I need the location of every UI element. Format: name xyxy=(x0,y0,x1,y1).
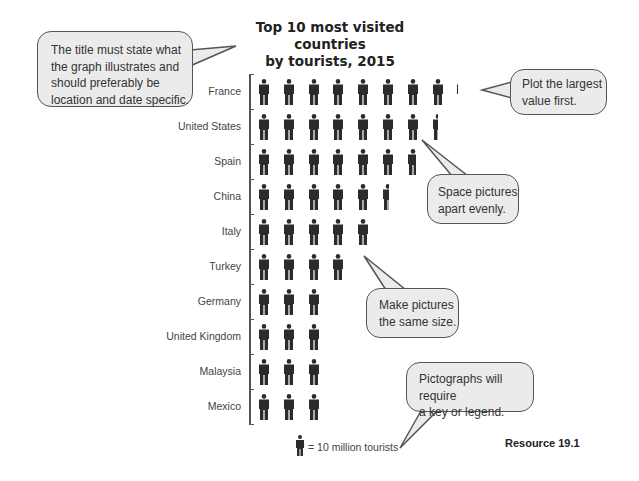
person-icon xyxy=(407,79,419,105)
axis-tick xyxy=(249,249,254,251)
person-icon xyxy=(308,359,320,385)
person-icon xyxy=(258,184,270,210)
person-icon xyxy=(308,324,320,350)
resource-label: Resource 19.1 xyxy=(505,437,580,449)
axis-tick xyxy=(249,144,254,146)
partial-person-icon xyxy=(456,79,458,105)
axis-tick xyxy=(249,179,254,181)
axis-tick xyxy=(249,284,254,286)
callout-line: Make pictures xyxy=(379,297,458,314)
person-icon xyxy=(308,219,320,245)
person-icon xyxy=(308,254,320,280)
legend-label: = 10 million tourists xyxy=(308,441,398,453)
callout-line: the graph illustrates and xyxy=(51,59,192,76)
row-label: Malaysia xyxy=(200,365,241,377)
person-icon xyxy=(357,149,369,175)
person-icon xyxy=(332,79,344,105)
callout-key: Pictographs will require a key or legend… xyxy=(406,362,534,412)
row-label: United States xyxy=(178,120,241,132)
person-icon xyxy=(283,289,295,315)
person-icon xyxy=(258,149,270,175)
callout-title-tip: The title must state what the graph illu… xyxy=(37,31,193,107)
person-icon xyxy=(283,149,295,175)
callout-line: Plot the largest xyxy=(522,76,606,93)
person-icon xyxy=(283,394,295,420)
person-icon xyxy=(258,394,270,420)
row-label: Germany xyxy=(198,295,241,307)
row-label: United Kingdom xyxy=(166,330,241,342)
person-icon xyxy=(258,254,270,280)
callout-line: location and date specific. xyxy=(51,92,192,109)
person-icon xyxy=(332,184,344,210)
person-icon xyxy=(332,149,344,175)
person-icon xyxy=(283,324,295,350)
person-icon xyxy=(308,79,320,105)
person-icon xyxy=(308,114,320,140)
callout-line: a key or legend. xyxy=(419,404,533,421)
row-label: China xyxy=(214,190,241,202)
person-icon xyxy=(283,254,295,280)
partial-person-icon xyxy=(407,149,417,175)
callout-spacing: Space pictures apart evenly. xyxy=(427,174,519,224)
person-icon xyxy=(332,219,344,245)
row-label: Turkey xyxy=(209,260,241,272)
callout-line: Pictographs will require xyxy=(419,371,533,404)
person-icon xyxy=(258,219,270,245)
callout-line: the same size. xyxy=(379,314,458,331)
axis-tick xyxy=(249,389,254,391)
row-label: Mexico xyxy=(208,400,241,412)
axis-tick xyxy=(249,214,254,216)
chart-title-line1: Top 10 most visited countries xyxy=(225,19,435,53)
person-icon xyxy=(382,79,394,105)
callout-line: value first. xyxy=(522,93,606,110)
axis-tick xyxy=(249,354,254,356)
person-icon xyxy=(357,79,369,105)
row-label: Italy xyxy=(222,225,241,237)
person-icon xyxy=(283,79,295,105)
person-icon xyxy=(308,289,320,315)
axis-tick xyxy=(249,319,254,321)
callout-line: apart evenly. xyxy=(438,201,518,218)
person-icon xyxy=(332,254,344,280)
person-icon xyxy=(258,79,270,105)
row-label: France xyxy=(208,85,241,97)
callout-line: Space pictures xyxy=(438,184,518,201)
axis-tick xyxy=(249,74,254,76)
person-icon xyxy=(432,79,444,105)
person-icon xyxy=(382,114,394,140)
callout-same-size: Make pictures the same size. xyxy=(366,288,459,338)
person-icon xyxy=(283,359,295,385)
callout-line: should preferably be xyxy=(51,75,192,92)
person-icon xyxy=(308,394,320,420)
person-icon xyxy=(357,184,369,210)
person-icon xyxy=(283,184,295,210)
partial-person-icon xyxy=(382,184,389,210)
chart-title: Top 10 most visited countries by tourist… xyxy=(225,19,435,70)
legend-person-icon xyxy=(295,435,305,457)
person-icon xyxy=(357,114,369,140)
person-icon xyxy=(258,114,270,140)
person-icon xyxy=(407,114,419,140)
person-icon xyxy=(382,149,394,175)
callout-largest-first: Plot the largest value first. xyxy=(510,69,607,115)
chart-title-line2: by tourists, 2015 xyxy=(225,53,435,70)
callout-line: The title must state what xyxy=(51,42,192,59)
person-icon xyxy=(258,359,270,385)
person-icon xyxy=(258,324,270,350)
person-icon xyxy=(357,219,369,245)
person-icon xyxy=(283,114,295,140)
person-icon xyxy=(308,149,320,175)
row-label: Spain xyxy=(214,155,241,167)
person-icon xyxy=(332,114,344,140)
person-icon xyxy=(308,184,320,210)
person-icon xyxy=(283,219,295,245)
axis-tick xyxy=(249,424,254,426)
person-icon xyxy=(258,289,270,315)
axis-tick xyxy=(249,109,254,111)
